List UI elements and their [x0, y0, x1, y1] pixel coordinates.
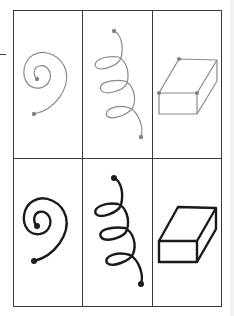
spiral-dark	[24, 198, 67, 262]
helix-light	[95, 29, 142, 138]
shape-grid-figure	[0, 0, 234, 316]
spiral-light	[24, 52, 67, 115]
box-dark	[159, 207, 216, 262]
box-light	[158, 58, 218, 115]
helix-dark	[95, 176, 143, 286]
